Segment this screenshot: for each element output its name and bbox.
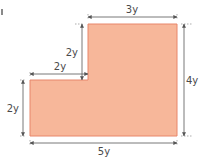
l-shape [30,24,177,136]
label-top-width: 3y [126,4,138,15]
label-right-height: 4y [186,75,198,86]
label-step-height: 2y [66,47,78,58]
label-bottom-width: 5y [98,146,110,157]
label-left-height: 2y [7,103,19,114]
label-step-width: 2y [54,61,66,72]
l-shape-diagram: 3y 2y 2y 2y 4y 5y [0,0,199,158]
